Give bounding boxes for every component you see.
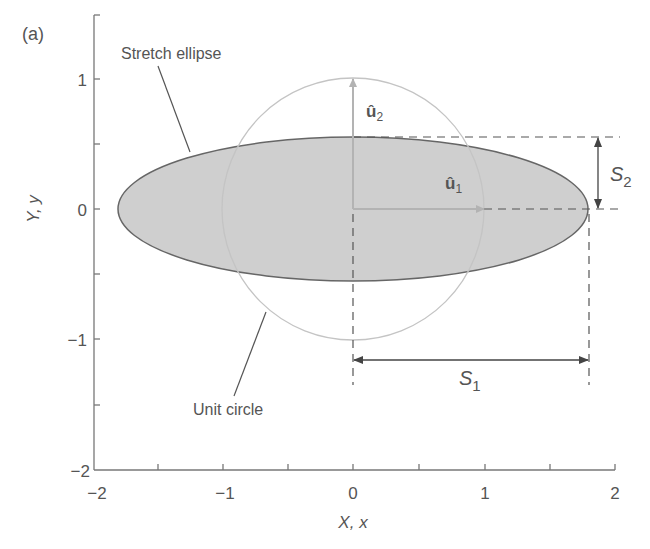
svg-text:1: 1: [78, 71, 87, 90]
u2-label: û2: [366, 102, 383, 124]
svg-text:−2: −2: [87, 484, 106, 503]
svg-text:0: 0: [348, 484, 357, 503]
stretch-ellipse-leader: [158, 66, 190, 152]
stretch-diagram: (a) 1 0 −1 −2 −2 −1 0 1 2: [0, 0, 650, 549]
x-tick-labels: −2 −1 0 1 2: [87, 484, 619, 503]
x-axis-label: X, x: [337, 513, 368, 532]
stretch-ellipse-label: Stretch ellipse: [121, 45, 222, 62]
svg-text:1: 1: [480, 484, 489, 503]
y-axis-label: Y, y: [24, 194, 43, 223]
s2-label: S2: [610, 163, 632, 190]
svg-text:2: 2: [610, 484, 619, 503]
s1-label: S1: [459, 367, 481, 394]
unit-circle-label: Unit circle: [193, 401, 263, 418]
y-tick-labels: 1 0 −1 −2: [68, 71, 90, 481]
panel-label: (a): [22, 24, 44, 44]
svg-text:−1: −1: [68, 331, 87, 350]
svg-text:0: 0: [78, 201, 87, 220]
unit-circle-leader: [234, 312, 266, 396]
svg-text:−1: −1: [215, 484, 234, 503]
svg-text:−2: −2: [71, 462, 90, 481]
